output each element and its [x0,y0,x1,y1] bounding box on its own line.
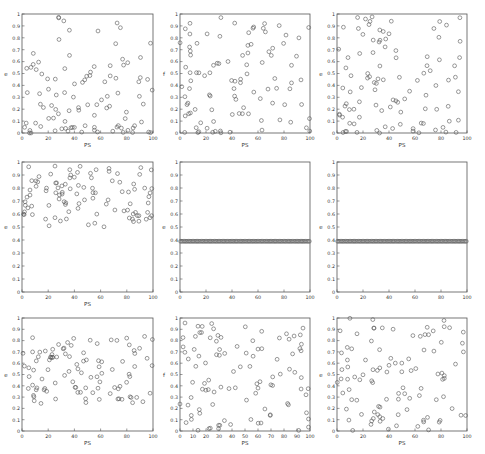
data-point [108,74,112,78]
data-point [120,190,124,194]
data-point [195,41,199,45]
data-point [23,210,27,214]
data-point [291,352,295,356]
x-tick-label: 100 [305,434,314,439]
data-point [461,341,465,345]
y-tick-label: 0.2 [170,406,178,411]
x-tick-label: 100 [462,434,471,439]
data-point [139,166,143,170]
x-tick-label: 80 [438,136,444,141]
data-point [188,87,192,91]
data-point [360,86,364,90]
data-point [98,380,102,384]
y-tick-label: 1 [332,160,335,165]
data-point [251,354,255,358]
data-point [353,375,357,379]
data-point [459,413,463,417]
data-point [137,80,141,84]
data-point [71,380,75,384]
data-point [34,184,38,188]
data-point [447,119,451,123]
data-point [387,363,391,367]
data-point [89,375,93,379]
data-point [438,58,442,62]
data-point [278,372,282,376]
y-tick-label: 0.5 [327,372,335,377]
data-point [40,72,44,76]
y-tick-label: 0.8 [170,338,178,343]
data-point [305,411,309,415]
data-point [197,408,201,412]
data-point [287,337,291,341]
data-point [458,56,462,60]
data-point [260,128,264,132]
data-point [434,128,438,132]
y-tick-label: 0.5 [12,225,20,230]
data-point [121,131,125,135]
data-point [57,197,61,201]
data-point [278,118,282,122]
data-point [28,193,32,197]
y-tick-label: 0.4 [170,83,178,88]
y-tick-label: 0.4 [12,384,20,389]
data-point [87,223,91,227]
scatter-plot-r2c3: 00.10.20.30.40.50.60.70.80.9102040608010… [315,158,473,314]
data-point [183,350,187,354]
data-point [405,408,409,412]
data-point [432,349,436,353]
data-point [397,397,401,401]
data-point [378,366,382,370]
data-point [445,23,449,27]
data-point [211,403,215,407]
data-point [453,64,457,68]
data-point [423,107,427,111]
data-point [300,103,304,107]
y-tick-label: 0.4 [327,83,335,88]
data-point [248,365,252,369]
data-point [208,71,212,75]
y-tick-label: 0.3 [12,395,20,400]
x-axis-label: PS [399,440,406,446]
y-tick-label: 0.2 [12,107,20,112]
data-point [372,410,376,414]
data-point [411,334,415,338]
data-point [244,351,248,355]
data-point [425,64,429,68]
data-point [275,357,279,361]
data-point [181,336,185,340]
y-tick-label: 0.6 [327,361,335,366]
data-point [381,78,385,82]
y-tick-label: 0.2 [327,406,335,411]
data-point [133,187,137,191]
data-point [348,108,352,112]
data-point [462,350,466,354]
data-point [245,63,249,67]
data-point [400,361,404,365]
data-point [399,110,403,114]
data-point [229,423,233,427]
y-axis-label: f [163,71,166,77]
y-tick-label: 0.9 [327,24,335,29]
data-point [361,373,365,377]
data-point [228,130,232,134]
y-tick-label: 0.2 [170,264,178,269]
data-point [34,359,38,363]
data-point [125,110,129,114]
data-point [245,398,249,402]
data-point [145,356,149,360]
data-point [282,42,286,46]
scatter-plot-r2c2: 00.10.20.30.40.50.60.70.80.9102040608010… [158,158,316,314]
data-point [39,125,43,129]
x-tick-label: 40 [386,136,392,141]
data-point [141,400,145,404]
data-point [426,416,430,420]
data-point [284,33,288,37]
data-point [458,16,462,20]
y-tick-label: 1 [17,12,20,17]
data-point [93,113,97,117]
data-point [371,38,375,42]
data-point [408,89,412,93]
data-point [141,102,145,106]
data-point [434,398,438,402]
y-tick-label: 0.4 [327,238,335,243]
